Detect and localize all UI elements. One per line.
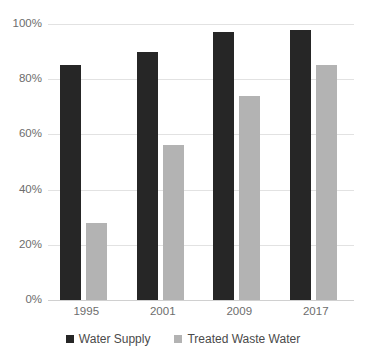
x-axis: 1995200120092017 (48, 304, 354, 324)
x-tick-label-2009: 2009 (201, 304, 277, 318)
bar-2017-series-0 (290, 30, 311, 300)
y-tick-label: 60% (0, 129, 42, 141)
bar-2009-series-1 (239, 96, 260, 300)
y-tick-label: 80% (0, 73, 42, 85)
bar-group-2017 (278, 24, 355, 300)
legend-label-1: Treated Waste Water (187, 332, 300, 346)
plot-area (48, 24, 354, 300)
x-tick-label-2001: 2001 (125, 304, 201, 318)
legend-item-0[interactable]: Water Supply (66, 332, 151, 346)
bar-2009-series-0 (213, 32, 234, 300)
bar-2001-series-0 (137, 52, 158, 300)
bar-group-1995 (48, 24, 125, 300)
bar-group-2009 (201, 24, 278, 300)
legend-item-1[interactable]: Treated Waste Water (174, 332, 300, 346)
bar-2001-series-1 (163, 145, 184, 300)
y-axis: 0%20%40%60%80%100% (0, 24, 42, 300)
legend-swatch-dark-icon (66, 335, 74, 343)
bars-layer (48, 24, 354, 300)
y-tick-label: 40% (0, 184, 42, 196)
y-tick-label: 0% (0, 294, 42, 306)
bar-2017-series-1 (316, 65, 337, 300)
bar-group-2001 (125, 24, 202, 300)
y-tick-label: 100% (0, 18, 42, 30)
legend-swatch-gray-icon (174, 335, 182, 343)
legend-label-0: Water Supply (79, 332, 151, 346)
x-tick-label-1995: 1995 (48, 304, 124, 318)
chart-legend: Water SupplyTreated Waste Water (0, 332, 366, 346)
bar-1995-series-0 (60, 65, 81, 300)
y-tick-label: 20% (0, 239, 42, 251)
x-tick-label-2017: 2017 (278, 304, 354, 318)
gridline-0 (48, 300, 354, 301)
bar-chart: 0%20%40%60%80%100% 1995200120092017 Wate… (0, 0, 366, 363)
bar-1995-series-1 (86, 223, 107, 300)
